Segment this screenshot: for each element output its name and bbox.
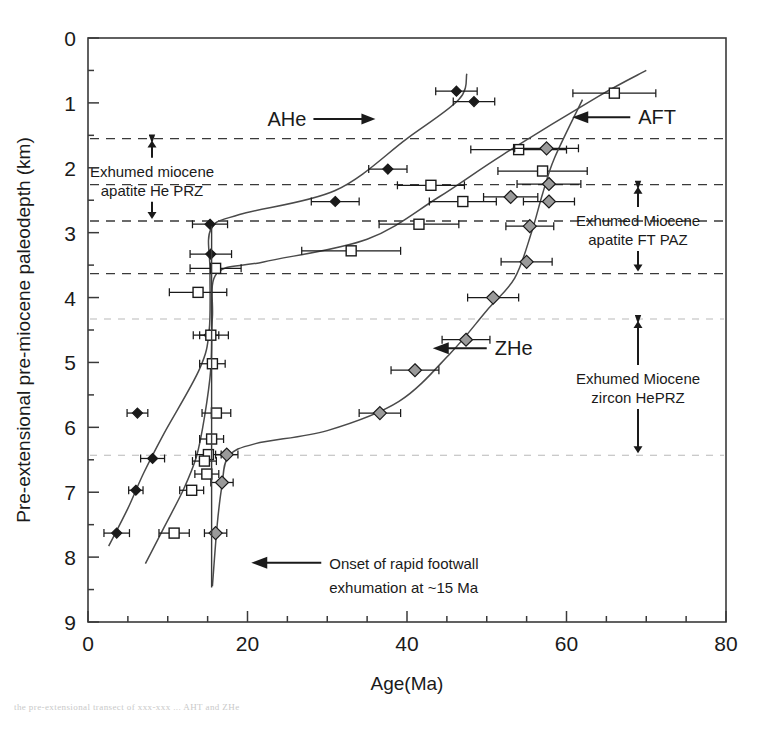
x-tick-label: 80 bbox=[714, 632, 737, 655]
data-point-AHe[interactable] bbox=[383, 164, 393, 174]
data-point-AFT[interactable] bbox=[207, 359, 217, 369]
data-point-AHe[interactable] bbox=[206, 249, 216, 259]
series-label-ZHe: ZHe bbox=[495, 337, 533, 359]
y-tick-label: 0 bbox=[64, 27, 76, 50]
x-tick-label: 0 bbox=[82, 632, 94, 655]
data-point-AFT[interactable] bbox=[211, 408, 221, 418]
plot-frame bbox=[88, 38, 726, 622]
y-axis-title: Pre-extensional pre-miocene paleodepth (… bbox=[13, 137, 34, 522]
zone-arrow-up-head bbox=[634, 187, 643, 194]
data-point-AFT[interactable] bbox=[199, 456, 209, 466]
data-point-ZHe[interactable] bbox=[542, 195, 555, 208]
data-point-ZHe[interactable] bbox=[408, 364, 421, 377]
data-point-AFT[interactable] bbox=[206, 330, 216, 340]
data-point-AHe[interactable] bbox=[330, 197, 340, 207]
data-point-AFT[interactable] bbox=[346, 246, 356, 256]
zone-label-line2: apatite He PRZ bbox=[101, 182, 204, 199]
data-point-AFT[interactable] bbox=[538, 166, 548, 176]
data-point-AFT[interactable] bbox=[414, 219, 424, 229]
data-point-ZHe[interactable] bbox=[520, 255, 533, 268]
zone-arrow-down-head bbox=[634, 446, 643, 453]
data-point-AFT[interactable] bbox=[169, 528, 179, 538]
data-point-ZHe[interactable] bbox=[487, 291, 500, 304]
data-point-ZHe[interactable] bbox=[460, 333, 473, 346]
zone-arrow-down-head bbox=[634, 265, 643, 272]
annotation-arrow-head bbox=[361, 114, 375, 125]
annotation-ahe-label bbox=[313, 114, 375, 125]
data-point-AHe[interactable] bbox=[131, 485, 141, 495]
data-point-ZHe[interactable] bbox=[220, 448, 233, 461]
x-tick-label: 20 bbox=[236, 632, 259, 655]
y-tick-label: 3 bbox=[64, 222, 76, 245]
zone-label-line2: apatite FT PAZ bbox=[588, 231, 688, 248]
y-tick-label: 7 bbox=[64, 481, 76, 504]
data-point-AHe[interactable] bbox=[132, 408, 142, 418]
zone-arrow-up-head bbox=[634, 321, 643, 328]
annotation-arrow-head bbox=[572, 111, 588, 123]
annotation-onset-label bbox=[251, 557, 321, 569]
x-tick-label: 40 bbox=[395, 632, 418, 655]
series-label-AFT: AFT bbox=[638, 106, 676, 128]
data-point-ZHe[interactable] bbox=[540, 142, 553, 155]
data-point-ZHe[interactable] bbox=[373, 407, 386, 420]
annotation-aft-label bbox=[572, 111, 630, 123]
series-AHe bbox=[104, 74, 495, 546]
onset-label-line1: Onset of rapid footwall bbox=[329, 555, 478, 572]
data-point-ZHe[interactable] bbox=[215, 476, 228, 489]
y-tick-label: 6 bbox=[64, 416, 76, 439]
data-point-AHe[interactable] bbox=[451, 86, 461, 96]
zone-label-line1: Exhumed miocene bbox=[90, 163, 214, 180]
data-point-AFT[interactable] bbox=[458, 197, 468, 207]
data-point-AHe[interactable] bbox=[469, 97, 479, 107]
x-tick-label: 60 bbox=[555, 632, 578, 655]
y-tick-label: 4 bbox=[64, 287, 76, 310]
zone-arrow-up-head bbox=[148, 141, 157, 148]
y-tick-label: 1 bbox=[64, 92, 76, 115]
data-point-AFT[interactable] bbox=[193, 287, 203, 297]
y-tick-label: 9 bbox=[64, 611, 76, 634]
y-tick-label: 5 bbox=[64, 351, 76, 374]
data-point-AFT[interactable] bbox=[426, 180, 436, 190]
zone-label-line2: zircon HePRZ bbox=[591, 389, 684, 406]
annotation-arrow-head bbox=[433, 342, 449, 354]
data-point-AFT[interactable] bbox=[202, 469, 212, 479]
trend-curve-AHe bbox=[109, 74, 467, 546]
data-point-AFT[interactable] bbox=[187, 485, 197, 495]
data-point-ZHe[interactable] bbox=[504, 190, 517, 203]
zone-arrow-down-head bbox=[148, 212, 157, 219]
zone-label-line1: Exhumed Miocene bbox=[576, 212, 700, 229]
figure-canvas: Exhumed mioceneapatite He PRZExhumed Mio… bbox=[0, 0, 764, 731]
trend-curve-AFT bbox=[145, 70, 646, 563]
data-point-AFT[interactable] bbox=[609, 88, 619, 98]
series-label-AHe: AHe bbox=[267, 108, 306, 130]
figure-caption-strip: the pre-extensional transect of xxx-xxx … bbox=[14, 702, 754, 712]
y-tick-label: 2 bbox=[64, 157, 76, 180]
paleodepth-age-chart: Exhumed mioceneapatite He PRZExhumed Mio… bbox=[0, 0, 764, 700]
zone-label-line1: Exhumed Miocene bbox=[576, 370, 700, 387]
annotation-arrow-head bbox=[251, 557, 267, 569]
y-tick-label: 8 bbox=[64, 546, 76, 569]
x-axis-title: Age(Ma) bbox=[371, 673, 444, 694]
onset-label-line2: exhumation at ~15 Ma bbox=[329, 579, 479, 596]
